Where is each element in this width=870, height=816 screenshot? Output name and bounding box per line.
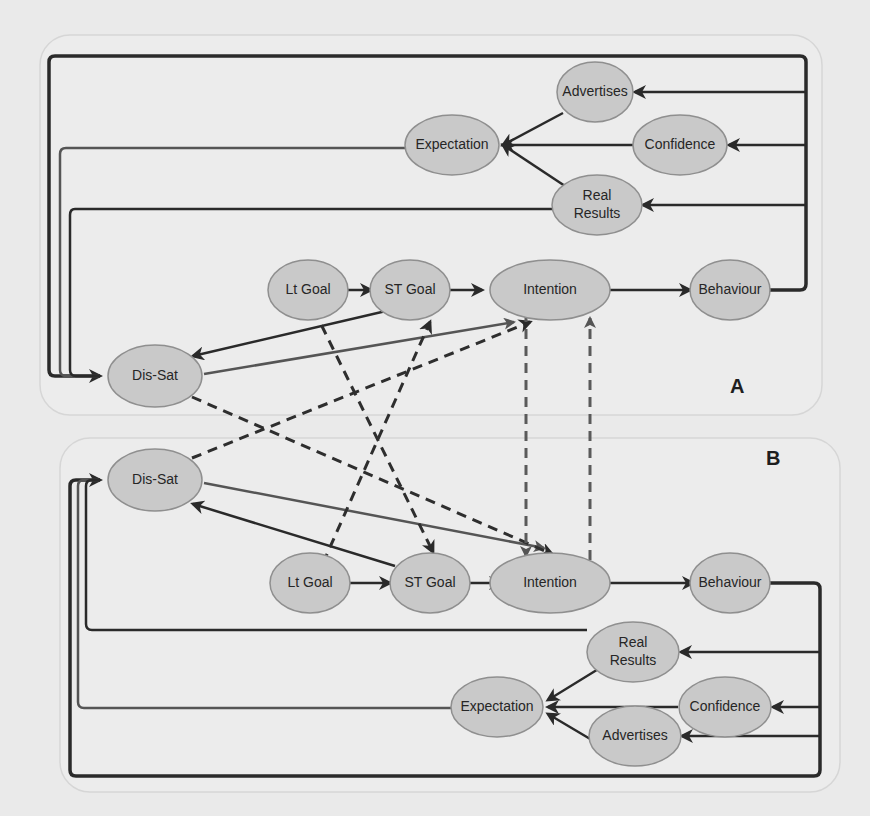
node-a-real-results: Real Results (552, 175, 642, 235)
node-label-line2: Results (610, 652, 657, 668)
node-label-line2: Results (574, 205, 621, 221)
node-label: Expectation (460, 698, 533, 714)
node-a-expectation: Expectation (405, 115, 499, 175)
node-label: ST Goal (384, 281, 435, 297)
node-label: Intention (523, 281, 577, 297)
panel-b-label: B (766, 447, 780, 469)
node-b-advertises: Advertises (589, 706, 681, 766)
node-b-real-results: Real Results (587, 622, 679, 682)
node-b-confidence: Confidence (679, 677, 771, 737)
node-a-advertises: Advertises (557, 62, 633, 122)
node-label: Confidence (645, 136, 716, 152)
node-b-st-goal: ST Goal (390, 553, 470, 613)
node-label: Expectation (415, 136, 488, 152)
node-a-behaviour: Behaviour (690, 260, 770, 320)
diagram-canvas: Advertises Expectation Confidence Real R… (0, 0, 870, 816)
node-label-line1: Real (583, 187, 612, 203)
node-b-behaviour: Behaviour (690, 553, 770, 613)
node-a-intention: Intention (490, 260, 610, 320)
node-label: Confidence (690, 698, 761, 714)
node-b-expectation: Expectation (451, 677, 543, 737)
node-label: ST Goal (404, 574, 455, 590)
node-label-line1: Real (619, 634, 648, 650)
node-label: Behaviour (698, 574, 761, 590)
node-a-confidence: Confidence (633, 115, 727, 175)
node-label: Behaviour (698, 281, 761, 297)
node-b-lt-goal: Lt Goal (270, 553, 350, 613)
node-a-dis-sat: Dis-Sat (108, 345, 202, 407)
node-label: Dis-Sat (132, 471, 178, 487)
node-b-dis-sat: Dis-Sat (108, 449, 202, 511)
node-a-lt-goal: Lt Goal (268, 260, 348, 320)
node-label: Advertises (562, 83, 627, 99)
node-b-intention: Intention (490, 553, 610, 613)
node-label: Lt Goal (285, 281, 330, 297)
panel-a-label: A (730, 375, 744, 397)
node-label: Intention (523, 574, 577, 590)
node-label: Dis-Sat (132, 367, 178, 383)
node-label: Lt Goal (287, 574, 332, 590)
node-a-st-goal: ST Goal (370, 260, 450, 320)
node-label: Advertises (602, 727, 667, 743)
